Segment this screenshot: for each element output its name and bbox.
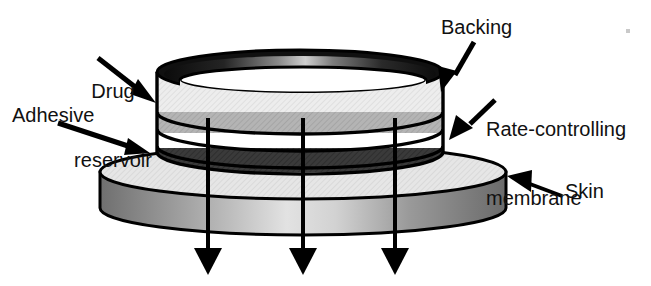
diagram-canvas: Drug reservoir Adhesive Backing Rate-con… xyxy=(0,0,651,286)
scan-artifact-speck xyxy=(626,29,630,33)
label-drug-reservoir-line1: Drug xyxy=(58,80,168,103)
leader-arrow-backing xyxy=(438,42,474,92)
label-rate-controlling-membrane: Rate-controlling membrane xyxy=(486,72,626,256)
label-rate-membrane-line1: Rate-controlling xyxy=(486,118,626,141)
label-skin: Skin xyxy=(565,180,604,203)
label-backing: Backing xyxy=(441,16,512,39)
label-rate-membrane-line2: membrane xyxy=(486,187,626,210)
label-drug-reservoir-line2: reservoir xyxy=(58,149,168,172)
patch-cylinder xyxy=(150,50,450,185)
patch-rim-inner-edge xyxy=(180,67,426,93)
label-adhesive: Adhesive xyxy=(12,104,94,127)
